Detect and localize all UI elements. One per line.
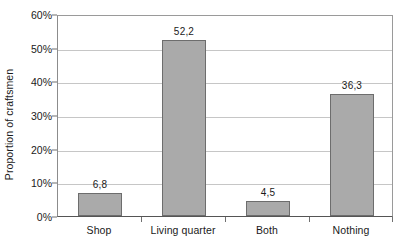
bar-group: 4,5 (226, 16, 310, 216)
x-axis-tick-mark (141, 217, 142, 222)
bar-group: 6,8 (58, 16, 142, 216)
x-axis-tick-label: Living quarter (150, 224, 215, 236)
x-axis-tick-label: Nothing (333, 224, 370, 236)
bar-group: 36,3 (310, 16, 394, 216)
bar-group: 52,2 (142, 16, 226, 216)
bar (330, 94, 374, 216)
x-axis-tick-label: Both (256, 224, 278, 236)
bar (78, 193, 122, 216)
bar-chart-figure: Proportion of craftsmen 0%10%20%30%40%50… (0, 0, 408, 249)
bar (162, 40, 206, 216)
bar-value-label: 6,8 (93, 179, 108, 190)
bar-value-label: 52,2 (174, 26, 194, 37)
y-axis-tick-marks (0, 0, 57, 249)
bar-value-label: 4,5 (261, 187, 276, 198)
x-axis-tick-mark (392, 217, 393, 222)
plot-area: 6,852,24,536,3 (57, 15, 393, 217)
x-axis-tick-mark (309, 217, 310, 222)
bar-value-label: 36,3 (342, 80, 362, 91)
x-axis-tick-label: Shop (87, 224, 112, 236)
x-axis-tick-mark (225, 217, 226, 222)
x-axis-tick-labels: ShopLiving quarterBothNothing (57, 224, 393, 244)
bar (246, 201, 290, 216)
x-axis-tick-marks (57, 217, 393, 223)
